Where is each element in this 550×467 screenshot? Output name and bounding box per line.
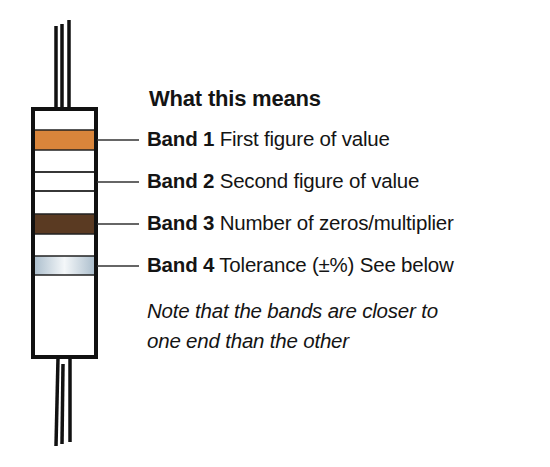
band-1-row: Band 1 First figure of value bbox=[147, 127, 390, 151]
band-2-description: Second figure of value bbox=[220, 169, 420, 192]
band-2-row: Band 2 Second figure of value bbox=[147, 169, 419, 193]
band-3-description: Number of zeros/multiplier bbox=[220, 211, 454, 234]
band-1-description: First figure of value bbox=[220, 127, 390, 150]
band-1-swatch bbox=[33, 130, 96, 150]
bottom-leads bbox=[56, 358, 70, 446]
note-line-1: Note that the bands are closer to bbox=[147, 296, 438, 326]
heading-what-this-means: What this means bbox=[149, 86, 321, 112]
band-3-label: Band 3 bbox=[147, 211, 214, 234]
band-3-row: Band 3 Number of zeros/multiplier bbox=[147, 211, 454, 235]
note-text: Note that the bands are closer to one en… bbox=[147, 296, 438, 356]
band-1-label: Band 1 bbox=[147, 127, 214, 150]
band-4-description: Tolerance (±%) See below bbox=[219, 253, 453, 276]
band-3-swatch bbox=[33, 214, 96, 234]
band-4-label: Band 4 bbox=[147, 253, 214, 276]
leader-lines bbox=[97, 140, 139, 266]
band-4-row: Band 4 Tolerance (±%) See below bbox=[147, 253, 454, 277]
band-2-label: Band 2 bbox=[147, 169, 214, 192]
band-2-swatch bbox=[33, 172, 96, 191]
note-line-2: one end than the other bbox=[147, 326, 438, 356]
band-4-swatch bbox=[33, 256, 96, 275]
top-leads bbox=[56, 20, 69, 110]
